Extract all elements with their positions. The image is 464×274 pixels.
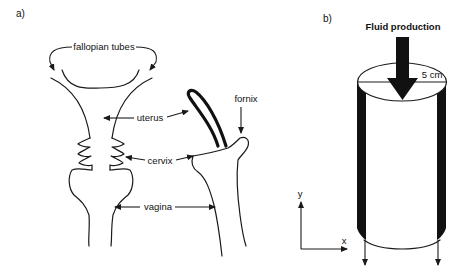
axes-indicator: y x <box>298 188 347 249</box>
dimension-label: 5 cm <box>422 69 443 80</box>
cervix-label: cervix <box>148 155 173 166</box>
fallopian-left-arrow <box>50 47 72 70</box>
side-body-right <box>193 137 248 246</box>
side-view-diagram: fornix <box>188 90 257 256</box>
fallopian-right-arrow <box>136 47 156 70</box>
front-view-diagram: fallopian tubes <box>50 41 157 246</box>
fluid-production-label: Fluid production <box>366 21 441 32</box>
y-axis-label: y <box>298 188 303 199</box>
uterus-fundus <box>62 70 139 88</box>
cylinder-right-wall <box>437 82 446 240</box>
panel-b: b) Fluid production 5 cm y x <box>298 13 447 265</box>
fornix-label: fornix <box>234 93 257 104</box>
cylinder-bottom-curve <box>364 240 440 249</box>
cervix-arrow-right <box>176 156 193 160</box>
uterus-label: uterus <box>137 112 164 123</box>
side-body-left <box>192 156 222 256</box>
cervix-right <box>110 138 124 170</box>
cervix-left <box>78 138 92 170</box>
figure: a) fallopian tubes <box>0 0 464 274</box>
side-uterus-loop <box>188 90 226 146</box>
panel-a: a) fallopian tubes <box>16 8 258 256</box>
x-axis-label: x <box>342 235 347 246</box>
vagina-left-wall <box>69 169 92 246</box>
fallopian-tubes-label: fallopian tubes <box>73 41 135 52</box>
panel-b-label: b) <box>323 13 332 24</box>
panel-a-label: a) <box>16 8 25 19</box>
uterus-arrow-right <box>167 111 188 117</box>
uterus-left-wall <box>51 78 90 138</box>
cervix-arrow-left <box>126 157 145 160</box>
cylinder-left-wall <box>357 82 366 240</box>
vagina-label: vagina <box>144 201 173 212</box>
